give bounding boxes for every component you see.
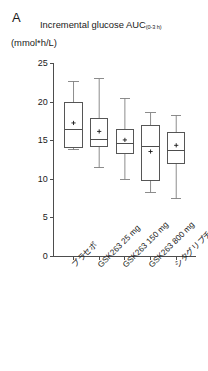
box-plot-group[interactable] — [142, 113, 160, 193]
y-axis-tick-label: 15 — [24, 136, 48, 145]
y-axis-tick-label: 10 — [24, 175, 48, 184]
box-plot-group[interactable] — [90, 79, 108, 168]
box-plot-group[interactable] — [167, 115, 185, 198]
box-plot-group[interactable] — [65, 81, 83, 150]
box-iqr[interactable] — [65, 103, 83, 148]
y-axis-tick-label: 5 — [24, 213, 48, 222]
y-axis-tick-label: 0 — [24, 252, 48, 261]
box-iqr[interactable] — [167, 133, 185, 163]
y-axis-tick-label: 25 — [24, 59, 48, 68]
figure-panel-a: A Incremental glucose AUC(0-3 h) (mmol*h… — [0, 0, 208, 371]
box-plot-group[interactable] — [116, 98, 134, 179]
boxplot-canvas — [0, 0, 208, 371]
y-axis-tick-label: 20 — [24, 98, 48, 107]
boxplot-svg — [0, 0, 208, 371]
